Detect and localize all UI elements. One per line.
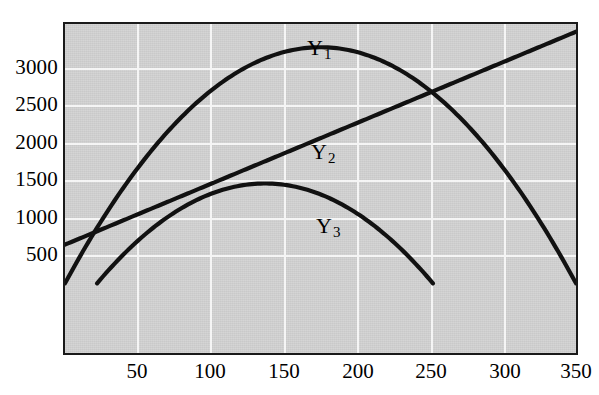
y-tick-label-3000: 3000 bbox=[0, 57, 58, 78]
curve-layer bbox=[65, 24, 576, 353]
series-label-y2: Y2 bbox=[311, 141, 334, 163]
y-tick-label-1500: 1500 bbox=[0, 169, 58, 190]
series-label-y3-text: Y bbox=[316, 213, 332, 238]
curve-y3 bbox=[97, 183, 433, 283]
series-label-y1-subscript: 1 bbox=[324, 46, 332, 62]
plot-area: Y1 Y2 Y3 bbox=[63, 22, 578, 355]
x-axis-tick-labels: 50 100 150 200 250 300 350 bbox=[0, 361, 599, 391]
x-tick-label-200: 200 bbox=[323, 361, 393, 382]
series-label-y1-text: Y bbox=[307, 35, 323, 60]
y-tick-label-2500: 2500 bbox=[0, 94, 58, 115]
chart-root: 3000 2500 2000 1500 1000 500 Y1 bbox=[0, 0, 599, 395]
x-tick-label-300: 300 bbox=[470, 361, 540, 382]
series-label-y2-subscript: 2 bbox=[328, 150, 336, 166]
series-label-y2-text: Y bbox=[311, 139, 327, 164]
series-label-y3-subscript: 3 bbox=[333, 224, 341, 240]
y-tick-label-1000: 1000 bbox=[0, 207, 58, 228]
x-tick-label-100: 100 bbox=[175, 361, 245, 382]
series-label-y3: Y3 bbox=[316, 215, 339, 237]
x-tick-label-250: 250 bbox=[396, 361, 466, 382]
curve-y1 bbox=[65, 47, 576, 283]
x-tick-label-50: 50 bbox=[102, 361, 172, 382]
x-tick-label-150: 150 bbox=[249, 361, 319, 382]
x-tick-label-350: 350 bbox=[541, 361, 599, 382]
y-tick-label-2000: 2000 bbox=[0, 132, 58, 153]
y-axis-tick-labels: 3000 2500 2000 1500 1000 500 bbox=[0, 0, 58, 395]
series-label-y1: Y1 bbox=[307, 37, 330, 59]
y-tick-label-500: 500 bbox=[0, 244, 58, 265]
